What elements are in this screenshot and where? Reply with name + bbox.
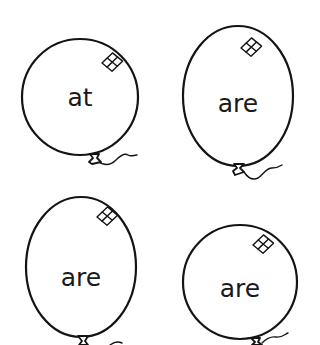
balloon-string-4 xyxy=(262,333,288,343)
balloon-knot-2 xyxy=(233,164,244,175)
balloon-knot-4 xyxy=(251,338,262,345)
balloon-word-4: are xyxy=(220,274,260,303)
balloon-knot-3 xyxy=(78,336,88,345)
balloon-word-1: at xyxy=(67,83,92,112)
balloon-4: are xyxy=(183,225,297,345)
balloon-knot-1 xyxy=(89,154,101,164)
balloon-string-1 xyxy=(97,154,137,164)
balloon-2: are xyxy=(183,26,293,179)
balloon-3: are xyxy=(26,197,136,345)
balloon-string-2 xyxy=(244,165,282,179)
balloon-1: at xyxy=(22,39,138,165)
balloon-word-2: are xyxy=(218,89,258,118)
balloon-word-3: are xyxy=(61,263,101,292)
balloon-worksheet: at are are are xyxy=(0,0,320,345)
